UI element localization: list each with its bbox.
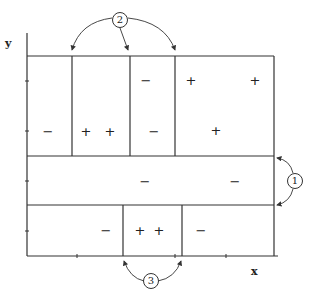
sign-minus: − bbox=[149, 125, 160, 138]
callout-2-arrow-left bbox=[72, 18, 112, 50]
callout-1-arrow-bottom bbox=[277, 189, 293, 205]
sign-plus: + bbox=[105, 125, 116, 138]
sign-minus: − bbox=[196, 224, 207, 237]
sign-minus: − bbox=[141, 74, 152, 87]
sign-plus: + bbox=[135, 224, 146, 237]
callout-2: 2 bbox=[112, 12, 128, 28]
sign-plus: + bbox=[250, 74, 261, 87]
sign-plus: + bbox=[154, 224, 165, 237]
callout-3: 3 bbox=[143, 273, 159, 289]
callout-2-arrow-right bbox=[128, 18, 175, 50]
sign-plus: + bbox=[186, 74, 197, 87]
sign-minus: − bbox=[101, 224, 112, 237]
callout-1: 1 bbox=[287, 173, 303, 189]
callout-1-arrow-top bbox=[277, 158, 293, 173]
sign-minus: − bbox=[43, 125, 54, 138]
callout-3-arrow-left bbox=[124, 261, 144, 281]
callout-2-arrow-middle bbox=[120, 28, 128, 50]
sign-plus: + bbox=[211, 124, 222, 137]
y-axis-label: y bbox=[5, 38, 11, 49]
sign-minus: − bbox=[230, 175, 241, 188]
sign-plus: + bbox=[81, 125, 92, 138]
callout-3-arrow-right bbox=[158, 261, 181, 281]
diagram-canvas bbox=[0, 0, 324, 298]
x-axis-label: x bbox=[251, 266, 258, 277]
sign-minus: − bbox=[140, 175, 151, 188]
